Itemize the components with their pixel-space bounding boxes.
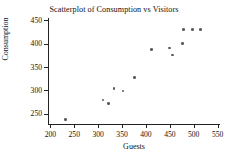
y-tick-label: 300 [13, 86, 42, 95]
data-point [181, 42, 184, 45]
data-point [191, 28, 194, 31]
x-tick-mark [146, 125, 147, 128]
cut-off-text [48, 0, 198, 2]
data-point [171, 54, 174, 57]
x-tick-label: 550 [203, 130, 228, 139]
data-point [199, 28, 202, 31]
x-axis-title: Guests [48, 142, 220, 152]
x-tick-mark [170, 125, 171, 128]
data-point [182, 28, 185, 31]
data-point [133, 76, 136, 79]
data-point [150, 48, 153, 51]
y-tick-label: 400 [13, 39, 42, 48]
y-tick-mark [44, 90, 48, 91]
y-axis-line [48, 18, 49, 125]
y-axis-title: Consumption [1, 1, 11, 77]
x-tick-mark [218, 125, 219, 128]
y-tick-label: 450 [13, 16, 42, 25]
data-point [113, 87, 116, 90]
y-tick-mark [44, 67, 48, 68]
y-tick-mark [44, 44, 48, 45]
y-tick-label: 250 [13, 109, 42, 118]
x-tick-mark [98, 125, 99, 128]
x-tick-mark [194, 125, 195, 128]
data-point [168, 47, 171, 50]
y-tick-mark [44, 114, 48, 115]
data-point [102, 99, 105, 102]
data-point [122, 90, 125, 93]
scatterplot-figure: Scatterplot of Consumption vs Visitors G… [0, 0, 228, 160]
chart-title: Scatterplot of Consumption vs Visitors [0, 5, 228, 15]
plot-area [48, 18, 220, 124]
y-tick-label: 350 [13, 63, 42, 72]
y-tick-mark [44, 20, 48, 21]
x-tick-mark [122, 125, 123, 128]
x-tick-mark [74, 125, 75, 128]
data-point [64, 118, 67, 121]
x-tick-mark [50, 125, 51, 128]
data-point [107, 102, 110, 105]
